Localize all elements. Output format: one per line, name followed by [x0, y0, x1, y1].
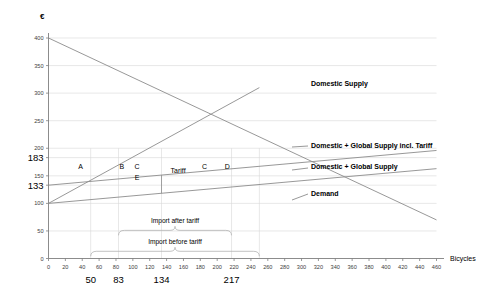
- x-tick-label: 40: [79, 264, 85, 270]
- tariff-supply-demand-chart: 050100150200250300350400 020406080100120…: [0, 0, 499, 290]
- tariff-label: Tariff: [171, 167, 186, 174]
- x-tick-label: 120: [145, 264, 154, 270]
- x-tick-label: 80: [113, 264, 119, 270]
- x-axis-title: Bicycles: [450, 255, 476, 263]
- region-label: D: [225, 163, 230, 170]
- region-label: A: [78, 163, 83, 170]
- region-label: C: [135, 163, 140, 170]
- series-label: Domestic Supply: [311, 80, 368, 88]
- y-axis-title: €: [40, 12, 45, 21]
- region-label: C: [202, 163, 207, 170]
- x-highlight-label: 50: [85, 274, 96, 285]
- series-line: [49, 88, 260, 204]
- legend-leader-line: [292, 194, 308, 200]
- x-tick-label: 160: [179, 264, 188, 270]
- x-tick-label: 340: [331, 264, 340, 270]
- y-tick-label: 150: [34, 173, 43, 179]
- y-tick-label: 400: [34, 35, 43, 41]
- x-axis-ticks: 0204060801001201401601802002202402602803…: [47, 259, 441, 270]
- series-legend-labels: Domestic SupplyDomestic + Global Supply …: [292, 80, 433, 200]
- series-label: Demand: [311, 190, 339, 197]
- x-tick-label: 220: [229, 264, 238, 270]
- chart-svg: 050100150200250300350400 020406080100120…: [0, 0, 499, 290]
- x-tick-label: 200: [213, 264, 222, 270]
- x-tick-label: 360: [347, 264, 356, 270]
- y-tick-label: 100: [34, 200, 43, 206]
- x-tick-label: 280: [280, 264, 289, 270]
- x-highlight-label: 134: [154, 274, 170, 285]
- y-tick-label: 350: [34, 63, 43, 69]
- region-label: B: [120, 163, 125, 170]
- bracket-label: Import after tariff: [151, 217, 199, 225]
- y-tick-label: 0: [40, 256, 43, 262]
- y-tick-label: 200: [34, 145, 43, 151]
- x-highlight-label: 83: [113, 274, 124, 285]
- x-tick-label: 180: [196, 264, 205, 270]
- region-label: E: [135, 174, 140, 181]
- y-tick-label: 300: [34, 90, 43, 96]
- x-tick-label: 0: [47, 264, 50, 270]
- legend-leader-line: [292, 168, 308, 170]
- x-tick-label: 60: [96, 264, 102, 270]
- x-tick-label: 140: [162, 264, 171, 270]
- x-tick-label: 380: [364, 264, 373, 270]
- import-brackets: Import before tariffImport after tariff: [91, 217, 260, 256]
- x-tick-label: 300: [297, 264, 306, 270]
- series-label: Domestic + Global Supply incl. Tariff: [311, 142, 433, 150]
- x-tick-label: 100: [128, 264, 137, 270]
- bracket: [91, 247, 260, 256]
- x-tick-label: 20: [62, 264, 68, 270]
- bracket-label: Import before tariff: [148, 238, 202, 246]
- y-tick-label: 50: [37, 228, 43, 234]
- y-tick-label: 250: [34, 118, 43, 124]
- x-tick-label: 320: [314, 264, 323, 270]
- x-tick-label: 260: [263, 264, 272, 270]
- x-highlight-label: 217: [224, 274, 240, 285]
- x-tick-label: 460: [432, 264, 441, 270]
- y-axis-ticks: 050100150200250300350400: [34, 35, 48, 262]
- x-tick-label: 240: [246, 264, 255, 270]
- legend-leader-line: [292, 146, 308, 147]
- region-labels: ABCECDTariff: [78, 163, 230, 181]
- x-tick-label: 440: [415, 264, 424, 270]
- x-tick-label: 420: [398, 264, 407, 270]
- x-tick-label: 400: [381, 264, 390, 270]
- series-label: Domestic + Global Supply: [311, 163, 398, 171]
- y-highlight-label: 183: [28, 152, 44, 163]
- series-line: [49, 169, 437, 204]
- y-highlight-label: 133: [28, 180, 44, 191]
